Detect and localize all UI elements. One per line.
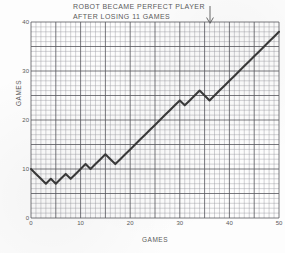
- y-tick-label: 20: [22, 117, 29, 123]
- x-tick-label: 50: [276, 220, 283, 226]
- x-axis-label: GAMES: [31, 236, 279, 243]
- chart-title: ROBOT BECAME PERFECT PLAYER AFTER LOSING…: [73, 2, 253, 22]
- y-tick-label: 30: [22, 68, 29, 74]
- x-tick-label: 0: [29, 220, 32, 226]
- x-tick-label: 30: [176, 220, 183, 226]
- chart-figure: ROBOT BECAME PERFECT PLAYER AFTER LOSING…: [0, 0, 285, 253]
- y-tick-label: 10: [22, 166, 29, 172]
- x-tick-label: 20: [127, 220, 134, 226]
- chart-canvas: [31, 22, 279, 218]
- chart-title-line-1: ROBOT BECAME PERFECT PLAYER: [73, 2, 253, 12]
- x-tick-label: 10: [77, 220, 84, 226]
- y-axis-label: GAMES: [15, 80, 22, 106]
- y-tick-label: 40: [22, 19, 29, 25]
- x-tick-label: 40: [226, 220, 233, 226]
- plot-area: 010203040 01020304050 GAMES GAMES: [31, 22, 279, 218]
- chart-title-line-2: AFTER LOSING 11 GAMES: [73, 12, 253, 22]
